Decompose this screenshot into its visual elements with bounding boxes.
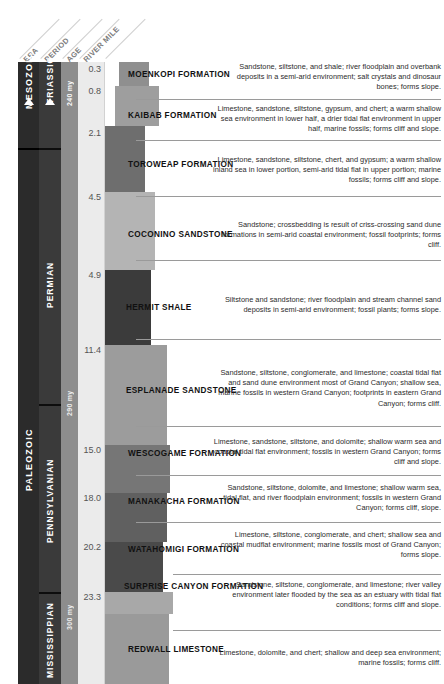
river-mile-column: 0.3 0.8 2.1 4.5 4.9 11.4 15.0 18.0 20.2 … (78, 62, 105, 684)
stratigraphic-column-figure: ERA PERIOD AGE RIVER MILE MESOZOIC PALEO… (0, 0, 444, 684)
description-kaibab: Limestone, sandstone, siltstone, gypsum,… (213, 104, 441, 135)
row-divider (136, 475, 441, 476)
description-hermit: Siltstone and sandstone; river floodplai… (213, 295, 441, 315)
river-mile-value: 15.0 (83, 445, 101, 455)
period-band-mississippian: MISSISSIPPIAN (39, 592, 61, 684)
era-label-mesozoic: MESOZOIC (18, 62, 39, 98)
period-label-pennsylvanian: PENNSYLVANIAN (39, 426, 61, 576)
period-label-permian: PERMIAN (39, 240, 61, 330)
period-band-triassic: TRIASSIC (39, 62, 61, 148)
description-redwall: Limestone, dolomite, and chert; shallow … (213, 648, 441, 668)
age-band-300: 300 my (61, 592, 78, 684)
age-label-240my: 240 my (61, 70, 78, 116)
header-river-mile: RIVER MILE (82, 24, 122, 64)
row-divider (136, 260, 441, 261)
description-coconino: Sandstone; crossbedding is result of cri… (213, 220, 441, 251)
row-divider (173, 630, 441, 631)
rock-unit-esplanade (105, 345, 167, 445)
age-label-300my: 300 my (61, 594, 78, 640)
age-band-240: 240 my (61, 62, 78, 148)
river-mile-value: 0.3 (88, 64, 101, 74)
period-label-mississippian: MISSISSIPPIAN (39, 594, 61, 684)
rock-unit-toroweap (105, 126, 145, 192)
description-esplanade: Sandstone, siltstone, conglomerate, and … (213, 368, 441, 409)
row-divider (136, 426, 441, 427)
header-rule-mile (79, 19, 119, 59)
formation-label-redwall: REDWALL LIMESTONE (128, 645, 224, 654)
row-divider (136, 339, 441, 340)
era-band-mesozoic: MESOZOIC (18, 62, 39, 148)
formation-label-kaibab: KAIBAB FORMATION (128, 111, 217, 120)
river-mile-value: 18.0 (83, 493, 101, 503)
formation-label-hermit: HERMIT SHALE (126, 303, 192, 312)
era-band-paleozoic: PALEOZOIC (18, 148, 39, 684)
age-band-290: 290 my (61, 148, 78, 592)
row-divider (136, 522, 441, 523)
period-label-triassic: TRIASSIC (39, 62, 61, 98)
era-column: MESOZOIC PALEOZOIC (18, 62, 39, 684)
river-mile-value: 11.4 (84, 345, 101, 355)
period-band-permian: PERMIAN (39, 148, 61, 404)
river-mile-value: 2.1 (88, 128, 101, 138)
rock-unit-surprise-canyon (105, 592, 173, 614)
description-watahomigi: Limestone, siltstone, conglomerate, and … (213, 530, 441, 561)
row-divider (136, 99, 441, 100)
era-label-paleozoic: PALEOZOIC (18, 400, 39, 520)
row-divider (173, 574, 441, 575)
row-divider (136, 196, 441, 197)
age-label-290my: 290 my (61, 380, 78, 426)
rock-unit-kaibab (115, 86, 159, 126)
river-mile-value: 0.8 (88, 86, 101, 96)
row-divider (136, 140, 441, 141)
description-manakacha: Sandstone, siltstone, dolomite, and lime… (213, 483, 441, 514)
river-mile-value: 4.9 (88, 270, 101, 280)
description-moenkopi: Sandstone, siltstone, and shale; river f… (213, 62, 441, 93)
age-column: 240 my 290 my 300 my (61, 62, 78, 684)
period-band-pennsylvanian: PENNSYLVANIAN (39, 404, 61, 592)
description-surprise-canyon: Sandstone, siltstone, conglomerate, and … (213, 580, 441, 611)
description-wescogame: Limestone, sandstone, siltstone, and dol… (213, 437, 441, 468)
river-mile-value: 20.2 (83, 542, 101, 552)
river-mile-value: 4.5 (88, 192, 101, 202)
river-mile-value: 23.3 (83, 592, 101, 602)
description-toroweap: Limestone, sandstone, siltstone, chert, … (213, 155, 441, 186)
period-column: TRIASSIC PERMIAN PENNSYLVANIAN MISSISSIP… (39, 62, 61, 684)
